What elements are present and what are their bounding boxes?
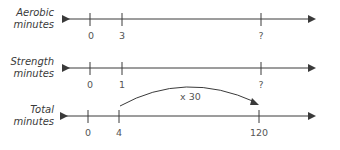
multiplier-label: x 30	[180, 91, 201, 102]
total-number-line	[66, 110, 314, 123]
strength-tick-unknown: ?	[258, 79, 263, 90]
number-lines	[0, 0, 340, 150]
strength-number-line	[68, 62, 314, 75]
total-tick-0: 0	[85, 127, 91, 138]
aerobic-tick-3: 3	[119, 30, 125, 41]
strength-tick-1: 1	[119, 79, 125, 90]
strength-tick-0: 0	[87, 79, 93, 90]
aerobic-number-line	[68, 13, 314, 26]
aerobic-tick-unknown: ?	[258, 30, 263, 41]
total-tick-120: 120	[250, 127, 268, 138]
aerobic-tick-0: 0	[88, 30, 94, 41]
total-tick-4: 4	[116, 127, 122, 138]
